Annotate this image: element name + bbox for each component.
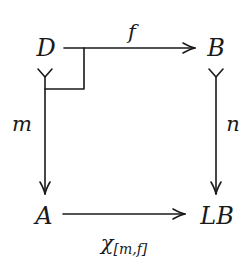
object-LB: LB — [200, 204, 234, 228]
commutative-diagram: D B A LB f m n χ[m,f] — [0, 0, 251, 264]
arrow-chi — [63, 209, 185, 219]
arrow-n — [209, 69, 223, 194]
label-m: m — [12, 114, 32, 135]
label-chi-subscript: [m,f] — [113, 241, 147, 257]
label-f: f — [128, 22, 136, 43]
object-B: B — [207, 36, 225, 60]
object-D: D — [36, 36, 55, 60]
label-chi-main: χ — [101, 231, 114, 255]
label-n: n — [226, 114, 240, 135]
object-A: A — [35, 204, 52, 228]
arrow-m — [38, 69, 52, 194]
label-chi: χ[m,f] — [101, 233, 148, 254]
